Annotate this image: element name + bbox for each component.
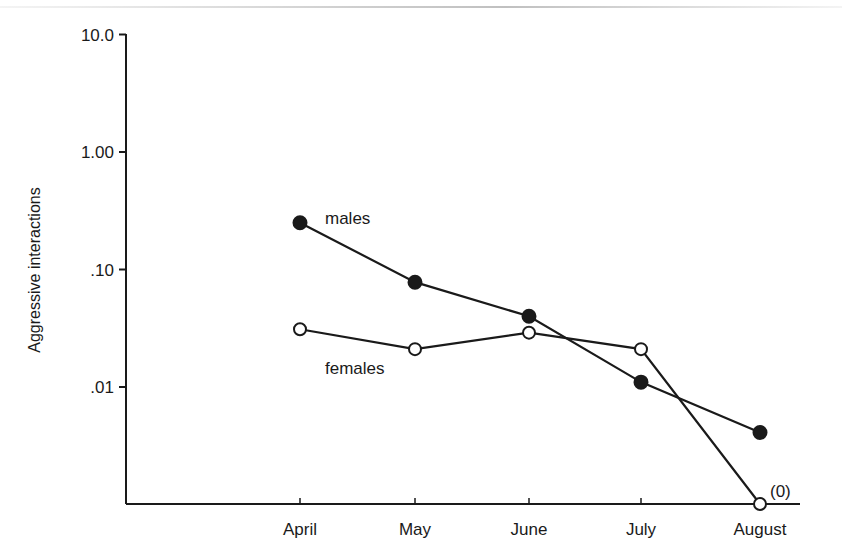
y-tick-label: .01 [90, 378, 114, 397]
y-axis-title: Aggressive interactions [26, 187, 43, 352]
females-marker [409, 343, 421, 355]
zero-annotation: (0) [770, 482, 791, 501]
males-label: males [325, 209, 370, 228]
x-tick-label: July [626, 520, 657, 539]
y-tick-label: 1.00 [81, 143, 114, 162]
males-marker [523, 310, 536, 323]
females-marker [754, 498, 766, 510]
females-marker [635, 343, 647, 355]
females-line [300, 329, 760, 504]
females-label: females [325, 359, 385, 378]
males-marker [754, 426, 767, 439]
x-tick-label: June [511, 520, 548, 539]
males-marker [635, 376, 648, 389]
x-tick-label: April [283, 520, 317, 539]
line-chart: 10.01.00.10.01AprilMayJuneJulyAugustAggr… [0, 0, 842, 557]
x-tick-label: May [399, 520, 432, 539]
y-tick-label: .10 [90, 261, 114, 280]
females-marker [294, 323, 306, 335]
males-marker [294, 216, 307, 229]
x-tick-label: August [734, 520, 787, 539]
males-marker [409, 276, 422, 289]
females-marker [523, 327, 535, 339]
y-tick-label: 10.0 [81, 26, 114, 45]
